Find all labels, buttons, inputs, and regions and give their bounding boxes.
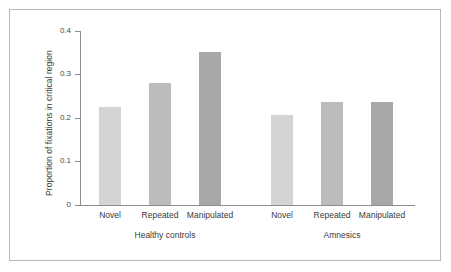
y-axis-title: Proportion of fixations in critical regi… (44, 38, 54, 208)
bar-healthy-novel (99, 106, 121, 205)
y-axis-line (80, 31, 81, 206)
y-tick-3 (75, 74, 80, 75)
y-tick-label-1: 0.1 (47, 157, 71, 165)
y-tick-label-0: 0 (47, 201, 71, 209)
y-tick-2 (75, 118, 80, 119)
x-axis-line (80, 205, 415, 206)
group-label-healthy-controls: Healthy controls (110, 230, 220, 240)
y-tick-0 (75, 205, 80, 206)
y-tick-1 (75, 161, 80, 162)
group-label-amnesics: Amnesics (287, 230, 397, 240)
bar-amnesics-novel (271, 114, 293, 205)
figure-container: Proportion of fixations in critical regi… (0, 0, 451, 272)
bar-label-healthy-manipulated: Manipulated (173, 210, 247, 220)
bar-healthy-manipulated (199, 51, 221, 205)
bar-label-amnesics-manipulated: Manipulated (345, 210, 419, 220)
y-tick-label-4: 0.4 (47, 27, 71, 35)
y-tick-4 (75, 31, 80, 32)
bar-chart-plot: Proportion of fixations in critical regi… (0, 0, 451, 272)
bar-healthy-repeated (149, 82, 171, 205)
y-tick-label-3: 0.3 (47, 70, 71, 78)
bar-amnesics-manipulated (371, 101, 393, 205)
bar-amnesics-repeated (321, 101, 343, 205)
y-tick-label-2: 0.2 (47, 114, 71, 122)
